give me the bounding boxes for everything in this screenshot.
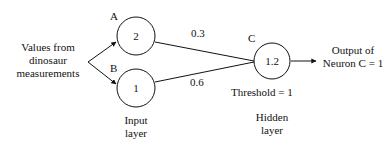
neural-network-diagram: Values from dinosaur measurements A 2 B … <box>0 0 392 145</box>
output-label: Output of Neuron C = 1 <box>316 44 390 70</box>
weight-a-c: 0.3 <box>191 27 205 40</box>
threshold-label: Threshold = 1 <box>231 86 293 99</box>
node-a-value: 2 <box>126 30 146 43</box>
node-a-tag: A <box>110 10 118 23</box>
caption-hidden-layer: Hidden layer <box>247 111 297 137</box>
edge-a-to-c <box>155 42 254 61</box>
input-source-label: Values from dinosaur measurements <box>8 41 88 80</box>
edge-source-to-a <box>88 42 116 62</box>
node-b-value: 1 <box>126 82 146 95</box>
caption-input-layer: Input layer <box>111 114 161 140</box>
edge-b-to-c <box>155 62 254 82</box>
weight-b-c: 0.6 <box>190 76 204 89</box>
node-b-tag: B <box>110 62 117 75</box>
node-c-value: 1.2 <box>260 55 284 68</box>
node-c-tag: C <box>248 32 255 45</box>
